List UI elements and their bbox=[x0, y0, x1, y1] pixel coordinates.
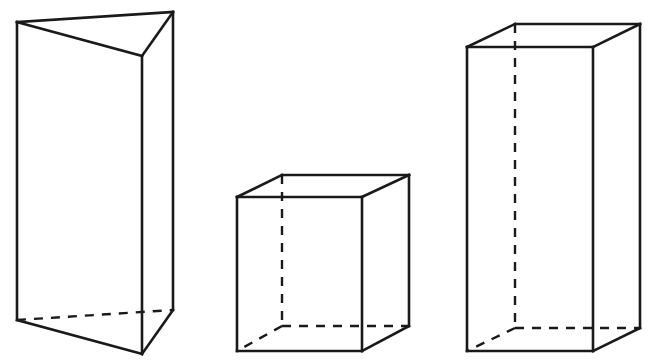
visible-edge bbox=[593, 328, 640, 351]
visible-edge bbox=[17, 22, 142, 56]
hidden-edge bbox=[467, 328, 515, 351]
visible-edge bbox=[142, 310, 173, 354]
cube bbox=[237, 175, 409, 351]
solids-diagram bbox=[0, 0, 653, 361]
visible-edge bbox=[362, 175, 409, 197]
visible-edge bbox=[593, 24, 640, 47]
visible-edge bbox=[17, 320, 142, 354]
visible-edge bbox=[362, 326, 409, 351]
visible-edge bbox=[142, 12, 173, 56]
rectangular-prism bbox=[467, 24, 640, 351]
hidden-edge bbox=[237, 326, 282, 351]
visible-edge bbox=[17, 12, 173, 22]
visible-edge bbox=[467, 24, 515, 47]
hidden-edge bbox=[17, 310, 173, 320]
visible-edge bbox=[237, 175, 282, 197]
triangular-prism bbox=[17, 12, 173, 354]
